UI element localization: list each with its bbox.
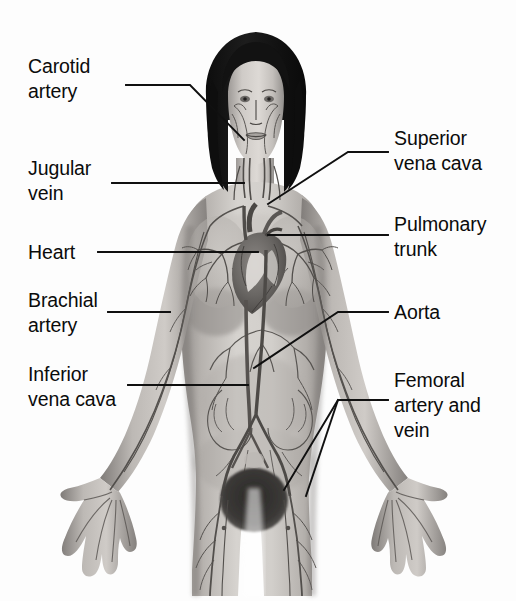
label-carotid-artery: Carotid artery xyxy=(28,54,90,104)
label-jugular-vein: Jugular vein xyxy=(28,156,91,206)
label-heart: Heart xyxy=(28,240,75,265)
label-brachial-artery: Brachial artery xyxy=(28,288,98,338)
label-pulmonary-trunk: Pulmonary trunk xyxy=(394,212,486,262)
anatomy-figure: Carotid artery Jugular vein Heart Brachi… xyxy=(0,0,516,601)
label-superior-vena-cava: Superior vena cava xyxy=(394,126,482,176)
label-inferior-vena-cava: Inferior vena cava xyxy=(28,362,116,412)
label-aorta: Aorta xyxy=(394,300,440,325)
label-femoral-artery-and-vein: Femoral artery and vein xyxy=(394,368,481,443)
